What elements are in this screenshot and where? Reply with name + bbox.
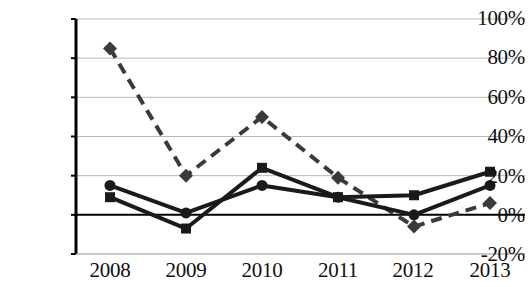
data-point-circle — [257, 180, 268, 191]
series-lines-group — [110, 48, 490, 228]
data-point-square — [105, 192, 115, 202]
data-point-circle — [105, 180, 116, 191]
data-point-square — [409, 190, 419, 200]
data-point-diamond — [179, 169, 193, 183]
data-point-square — [257, 163, 267, 173]
x-axis-tick-label: 2013 — [445, 259, 530, 282]
y-axis-tick-label: 80% — [455, 47, 525, 68]
y-axis-tick-label: 60% — [455, 87, 525, 108]
y-axis-tick-label: 40% — [455, 126, 525, 147]
y-axis-tick-label: 20% — [455, 166, 525, 187]
series-line-diamond — [110, 48, 490, 226]
data-point-circle — [409, 209, 420, 220]
data-point-square — [181, 224, 191, 234]
y-axis-tick-label: 100% — [455, 8, 525, 29]
y-axis-tick-label: 0% — [455, 205, 525, 226]
data-point-square — [333, 192, 343, 202]
data-point-circle — [181, 207, 192, 218]
data-point-diamond — [407, 220, 421, 234]
